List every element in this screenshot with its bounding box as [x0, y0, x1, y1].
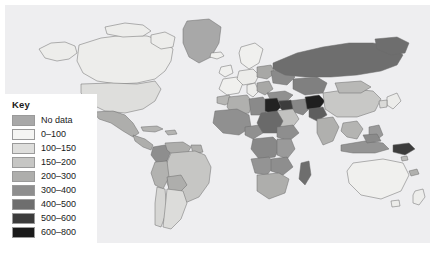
legend-swatch-600-800 — [12, 227, 35, 238]
legend-label-150-200: 150–200 — [41, 157, 76, 168]
legend-label-600-800: 600–800 — [41, 227, 76, 238]
legend-item-0-100: 0–100 — [12, 127, 97, 141]
legend-label-0-100: 0–100 — [41, 129, 66, 140]
legend-title: Key — [12, 99, 97, 110]
legend-swatch-no-data — [12, 115, 35, 126]
legend-label-300-400: 300–400 — [41, 185, 76, 196]
legend-swatch-200-300 — [12, 171, 35, 182]
legend-item-400-500: 400–500 — [12, 197, 97, 211]
legend-swatch-500-600 — [12, 213, 35, 224]
legend-item-100-150: 100–150 — [12, 141, 97, 155]
legend-item-300-400: 300–400 — [12, 183, 97, 197]
map-legend: Key No data 0–100 100–150 150–200 200–30… — [5, 94, 97, 243]
legend-swatch-0-100 — [12, 129, 35, 140]
legend-label-100-150: 100–150 — [41, 143, 76, 154]
legend-item-200-300: 200–300 — [12, 169, 97, 183]
legend-label-500-600: 500–600 — [41, 213, 76, 224]
legend-label-no-data: No data — [41, 115, 73, 126]
legend-swatch-300-400 — [12, 185, 35, 196]
legend-item-500-600: 500–600 — [12, 211, 97, 225]
world-map-figure: Key No data 0–100 100–150 150–200 200–30… — [0, 0, 437, 260]
legend-item-no-data: No data — [12, 113, 97, 127]
legend-swatch-100-150 — [12, 143, 35, 154]
legend-label-200-300: 200–300 — [41, 171, 76, 182]
country-pacific-islands — [401, 156, 408, 161]
country-korea — [379, 100, 387, 108]
legend-swatch-150-200 — [12, 157, 35, 168]
legend-item-150-200: 150–200 — [12, 155, 97, 169]
country-tasmania — [391, 200, 400, 207]
legend-item-600-800: 600–800 — [12, 225, 97, 239]
legend-label-400-500: 400–500 — [41, 199, 76, 210]
legend-swatch-400-500 — [12, 199, 35, 210]
